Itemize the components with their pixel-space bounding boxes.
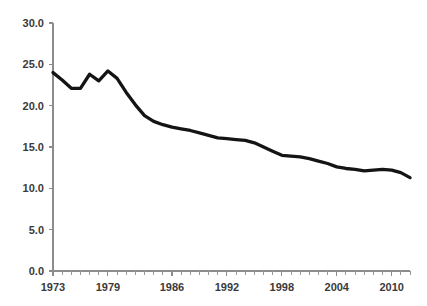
y-tick-label: 25.0 xyxy=(23,58,44,70)
chart-container: 0.05.010.015.020.025.030.0 1973197919861… xyxy=(0,0,427,306)
x-tick-label: 2004 xyxy=(325,281,350,293)
x-tick-label: 1998 xyxy=(270,281,294,293)
line-chart: 0.05.010.015.020.025.030.0 1973197919861… xyxy=(0,0,427,306)
y-tick-label: 10.0 xyxy=(23,182,44,194)
y-tick-label: 20.0 xyxy=(23,100,44,112)
x-tick-label: 1973 xyxy=(41,281,65,293)
x-tick-label: 1992 xyxy=(215,281,239,293)
x-tick-label: 1979 xyxy=(96,281,120,293)
y-tick-label: 0.0 xyxy=(29,265,44,277)
x-tick-label: 2010 xyxy=(379,281,403,293)
chart-background xyxy=(0,0,427,306)
y-tick-label: 15.0 xyxy=(23,141,44,153)
y-tick-label: 5.0 xyxy=(29,224,44,236)
y-tick-label: 30.0 xyxy=(23,17,44,29)
x-tick-label: 1986 xyxy=(160,281,184,293)
